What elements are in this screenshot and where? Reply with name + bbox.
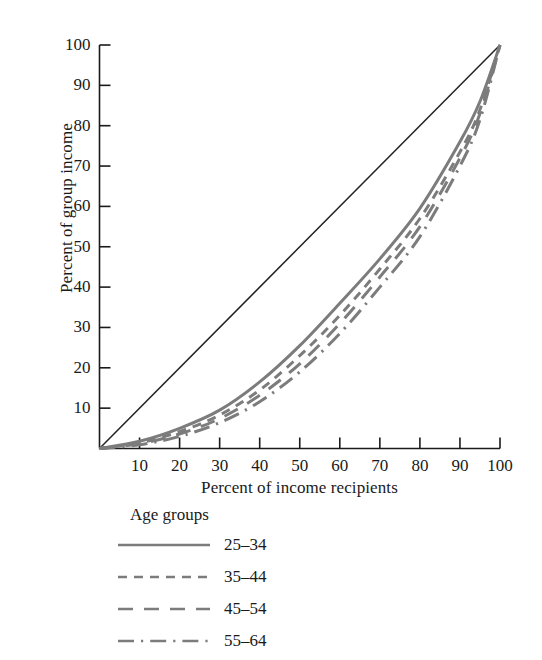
legend-label-55-64: 55–64 [224, 631, 267, 651]
x-tick-label: 20 [158, 457, 202, 474]
legend-item-45-54[interactable]: 45–54 [118, 593, 418, 625]
legend-entries: 25–3435–4445–5455–64 [118, 529, 418, 657]
y-tick-label: 40 [47, 278, 91, 295]
legend-label-35-44: 35–44 [224, 567, 267, 587]
lorenz-curve-figure: Percent of group income Percent of incom… [0, 0, 542, 660]
y-tick-label: 80 [47, 117, 91, 134]
y-tick-label: 10 [47, 399, 91, 416]
y-tick-label: 20 [47, 359, 91, 376]
legend-label-25-34: 25–34 [224, 535, 267, 555]
x-tick-label: 30 [198, 457, 242, 474]
y-tick-label: 60 [47, 197, 91, 214]
equality-reference-line [100, 45, 501, 449]
data-series-layer [100, 45, 501, 449]
legend: Age groups 25–3435–4445–5455–64 [118, 505, 418, 657]
y-tick-label: 90 [47, 76, 91, 93]
legend-title: Age groups [130, 505, 418, 525]
x-tick-label: 10 [118, 457, 162, 474]
y-tick-label: 50 [47, 238, 91, 255]
x-tick-label: 80 [398, 457, 442, 474]
x-tick-label: 70 [358, 457, 402, 474]
x-axis-title: Percent of income recipients [99, 478, 500, 498]
legend-item-25-34[interactable]: 25–34 [118, 529, 418, 561]
legend-item-35-44[interactable]: 35–44 [118, 561, 418, 593]
y-tick-label: 100 [47, 36, 91, 53]
x-tick-label: 40 [238, 457, 282, 474]
legend-line-swatch-25-34 [118, 537, 210, 553]
x-tick-label: 100 [478, 457, 522, 474]
x-tick-label: 50 [278, 457, 322, 474]
legend-line-swatch-55-64 [118, 633, 210, 649]
x-tick-label: 90 [438, 457, 482, 474]
legend-label-45-54: 45–54 [224, 599, 267, 619]
y-tick-label: 30 [47, 318, 91, 335]
legend-line-swatch-35-44 [118, 569, 210, 585]
legend-item-55-64[interactable]: 55–64 [118, 625, 418, 657]
y-tick-label: 70 [47, 157, 91, 174]
x-tick-label: 60 [318, 457, 362, 474]
x-axis-ticks [140, 438, 500, 449]
y-axis-ticks [100, 45, 111, 408]
legend-line-swatch-45-54 [118, 601, 210, 617]
